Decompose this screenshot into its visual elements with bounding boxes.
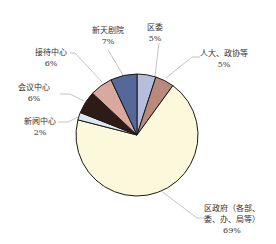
slice-pct: 5%	[147, 33, 163, 44]
label-huiyi: 会议中心 6%	[18, 82, 50, 104]
pie-slices	[76, 74, 198, 196]
slice-pct: 5%	[200, 59, 248, 70]
slice-name: 接待中心	[35, 47, 67, 58]
label-renda: 人大、政协等 5%	[200, 48, 248, 70]
slice-name: 区委	[147, 22, 163, 33]
slice-pct: 69%	[204, 225, 260, 236]
slice-pct: 6%	[18, 93, 50, 104]
label-quwei: 区委 5%	[147, 22, 163, 44]
slice-pct: 2%	[24, 127, 56, 138]
label-xinwen: 新闻中心 2%	[24, 116, 56, 138]
slice-name-line2: 委、办、局等）	[204, 214, 260, 225]
slice-name-line1: 区政府（各部、	[204, 203, 260, 214]
slice-name: 新闻中心	[24, 116, 56, 127]
slice-name: 新天剧院	[92, 25, 124, 36]
slice-pct: 6%	[35, 58, 67, 69]
slice-name: 会议中心	[18, 82, 50, 93]
label-quzhengfu: 区政府（各部、 委、办、局等） 69%	[204, 203, 260, 236]
label-juyuan: 新天剧院 7%	[92, 25, 124, 47]
slice-name: 人大、政协等	[200, 48, 248, 59]
slice-pct: 7%	[92, 36, 124, 47]
label-jiedai: 接待中心 6%	[35, 47, 67, 69]
